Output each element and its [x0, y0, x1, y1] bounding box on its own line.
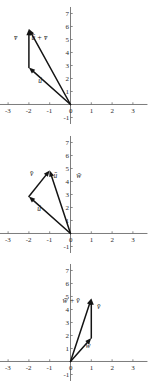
vector-label-v: v̄ — [30, 168, 34, 177]
y-tick-label: 3 — [66, 191, 70, 199]
y-tick-label: 2 — [66, 332, 70, 340]
vector-label-v: v̄ — [14, 33, 18, 42]
vector-label-u: ū — [38, 76, 42, 85]
x-tick-label: 3 — [131, 107, 135, 115]
x-tick-label: 2 — [110, 107, 114, 115]
coordinate-plane-3: -3-2-10123-11234567w̄v̄w̄ + v̄ — [0, 257, 151, 386]
x-tick-label: 2 — [110, 235, 114, 243]
x-tick-label: 1 — [90, 364, 94, 372]
y-tick-label: 6 — [66, 152, 70, 160]
x-tick-label: 1 — [90, 235, 94, 243]
y-tick-label: 2 — [66, 75, 70, 83]
y-tick-label: 5 — [66, 165, 70, 173]
vector-label-w-inner: ū — [53, 170, 57, 179]
y-tick-label: -1 — [64, 243, 70, 251]
y-tick-label: -1 — [64, 114, 70, 122]
x-tick-label: -2 — [26, 235, 32, 243]
x-tick-label: 2 — [110, 364, 114, 372]
vector-panel-1: -3-2-10123-11234567ūv̄ū + v̄ — [0, 0, 151, 129]
y-tick-label: 6 — [66, 280, 70, 288]
vector-panel-2: -3-2-10123-11234567ūv̄ūw̄ — [0, 129, 151, 258]
vector-label-u: ū — [37, 204, 41, 213]
vector-label-w: w̄ — [85, 341, 90, 350]
coordinate-plane-2: -3-2-10123-11234567ūv̄ūw̄ — [0, 129, 151, 258]
vector-label-u+v: ū + v̄ — [31, 33, 48, 42]
x-tick-label: -2 — [26, 364, 32, 372]
vector-label-w: w̄ — [76, 170, 81, 179]
vector-label-v: v̄ — [97, 302, 101, 311]
x-tick-label: 3 — [131, 364, 135, 372]
x-tick-label: 0 — [69, 364, 73, 372]
y-tick-label: 7 — [66, 10, 70, 18]
x-tick-label: 0 — [69, 235, 73, 243]
x-tick-label: -1 — [47, 364, 53, 372]
coordinate-plane-1: -3-2-10123-11234567ūv̄ū + v̄ — [0, 0, 151, 129]
x-tick-label: 3 — [131, 235, 135, 243]
x-tick-label: -3 — [5, 235, 11, 243]
vector-w+v-shaft — [71, 303, 90, 362]
x-tick-label: 0 — [69, 107, 73, 115]
y-tick-label: 6 — [66, 23, 70, 31]
y-tick-label: 4 — [66, 306, 70, 314]
y-tick-label: 7 — [66, 267, 70, 275]
y-tick-label: 1 — [66, 345, 70, 353]
x-tick-label: -2 — [26, 107, 32, 115]
y-tick-label: 2 — [66, 204, 70, 212]
y-tick-label: 4 — [66, 178, 70, 186]
x-tick-label: -1 — [47, 235, 53, 243]
y-tick-label: 5 — [66, 36, 70, 44]
x-tick-label: -1 — [47, 107, 53, 115]
vector-label-w+v: w̄ + v̄ — [63, 296, 81, 305]
y-tick-label: 4 — [66, 49, 70, 57]
x-tick-label: -3 — [5, 364, 11, 372]
vector-panel-3: -3-2-10123-11234567w̄v̄w̄ + v̄ — [0, 257, 151, 386]
y-tick-label: -1 — [64, 371, 70, 379]
y-tick-label: 1 — [66, 88, 70, 96]
y-tick-label: 7 — [66, 139, 70, 147]
vector-diagram-figure: -3-2-10123-11234567ūv̄ū + v̄ -3-2-1012… — [0, 0, 151, 386]
y-tick-label: 3 — [66, 62, 70, 70]
y-tick-label: 3 — [66, 319, 70, 327]
x-tick-label: 1 — [90, 107, 94, 115]
vector-w+v-arrowhead — [87, 299, 92, 306]
x-tick-label: -3 — [5, 107, 11, 115]
